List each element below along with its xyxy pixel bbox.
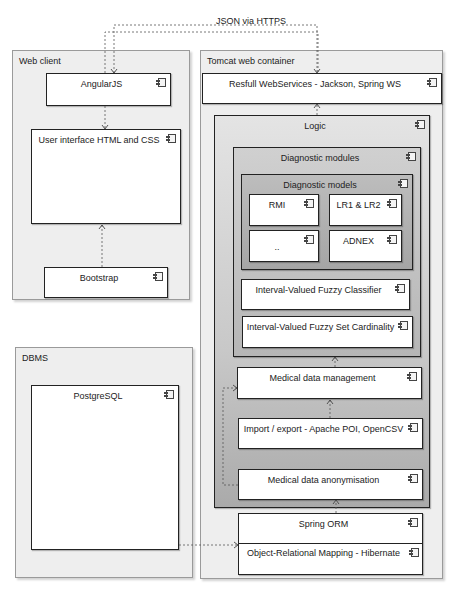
other-models-component[interactable]: .. xyxy=(249,230,319,262)
lr1-lr2-component[interactable]: LR1 & LR2 xyxy=(329,194,402,226)
postgresql-label: PostgreSQL xyxy=(32,391,164,401)
tomcat-label: Tomcat web container xyxy=(207,56,295,66)
component-icon xyxy=(408,152,416,161)
component-icon xyxy=(168,134,176,143)
component-icon xyxy=(389,199,397,208)
rmi-label: RMI xyxy=(250,200,304,210)
ui-html-css-component[interactable]: User interface HTML and CSS xyxy=(31,129,181,224)
adnex-label: ADNEX xyxy=(330,236,387,246)
component-icon xyxy=(400,179,408,188)
component-icon xyxy=(411,548,419,557)
angularjs-component[interactable]: AngularJS xyxy=(46,73,171,106)
ivf-set-cardinality-label: Interval-Valued Fuzzy Set Cardinality xyxy=(243,322,398,332)
ivf-set-cardinality-component[interactable]: Interval-Valued Fuzzy Set Cardinality xyxy=(242,316,413,348)
import-export-label: Import / export - Apache POI, OpenCSV xyxy=(239,424,408,434)
component-icon xyxy=(410,423,418,432)
import-export-component[interactable]: Import / export - Apache POI, OpenCSV xyxy=(238,418,423,449)
ui-html-css-label: User interface HTML and CSS xyxy=(32,135,166,145)
postgresql-component[interactable]: PostgreSQL xyxy=(31,385,179,550)
component-icon xyxy=(410,518,418,527)
component-icon xyxy=(158,78,166,87)
component-icon xyxy=(389,235,397,244)
component-icon xyxy=(166,390,174,399)
component-icon xyxy=(400,321,408,330)
angularjs-label: AngularJS xyxy=(47,79,156,89)
rest-webservices-label: Resfull WebServices - Jackson, Spring WS xyxy=(203,79,427,89)
anonymisation-label: Medical data anonymisation xyxy=(239,475,408,485)
component-icon xyxy=(306,235,314,244)
web-client-label: Web client xyxy=(19,56,61,66)
spring-orm-label: Spring ORM xyxy=(239,519,408,529)
other-models-label: .. xyxy=(250,242,304,252)
component-icon xyxy=(306,199,314,208)
rest-webservices-component[interactable]: Resfull WebServices - Jackson, Spring WS xyxy=(202,73,442,104)
anonymisation-component[interactable]: Medical data anonymisation xyxy=(238,469,423,500)
hibernate-label: Object-Relational Mapping - Hibernate xyxy=(238,548,409,558)
component-icon xyxy=(410,474,418,483)
medical-data-management-component[interactable]: Medical data management xyxy=(237,367,422,399)
adnex-component[interactable]: ADNEX xyxy=(329,230,402,262)
component-icon xyxy=(409,372,417,381)
ivf-classifier-label: Interval-Valued Fuzzy Classifier xyxy=(242,285,395,295)
component-icon xyxy=(417,120,425,129)
ivf-classifier-component[interactable]: Interval-Valued Fuzzy Classifier xyxy=(241,279,410,310)
rmi-component[interactable]: RMI xyxy=(249,194,319,226)
medical-data-management-label: Medical data management xyxy=(238,373,407,383)
component-icon xyxy=(429,78,437,87)
diagnostic-models-label: Diagnostic models xyxy=(242,180,398,190)
logic-label: Logic xyxy=(215,121,415,131)
component-icon xyxy=(155,272,163,281)
lr1-lr2-label: LR1 & LR2 xyxy=(330,200,387,210)
bootstrap-component[interactable]: Bootstrap xyxy=(44,267,168,298)
component-icon xyxy=(397,284,405,293)
diagnostic-modules-label: Diagnostic modules xyxy=(234,153,406,163)
dbms-label: DBMS xyxy=(22,353,48,363)
connector-label-json-https: JSON via HTTPS xyxy=(216,16,286,26)
bootstrap-label: Bootstrap xyxy=(45,273,153,283)
hibernate-component[interactable]: Object-Relational Mapping - Hibernate xyxy=(238,544,423,574)
